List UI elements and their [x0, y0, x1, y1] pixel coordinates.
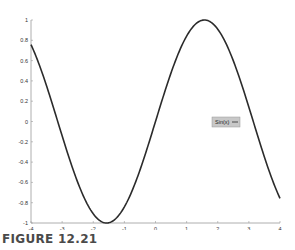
- y-tick-label: 0.6: [20, 58, 28, 64]
- y-tick-label: -1: [23, 220, 28, 226]
- y-tick-label: 0.8: [20, 37, 28, 43]
- x-tick-label: -1: [122, 226, 127, 230]
- legend-label: Sin(x): [215, 119, 230, 125]
- y-tick-label: -0.8: [19, 200, 28, 206]
- x-tick-label: -4: [29, 226, 34, 230]
- figure-caption: FIGURE 12.21: [2, 232, 97, 246]
- y-tick-label: 1: [25, 17, 28, 23]
- x-tick-label: -3: [60, 226, 65, 230]
- y-tick-label: -0.4: [19, 159, 28, 165]
- legend: Sin(x): [212, 117, 240, 127]
- y-tick-label: -0.6: [19, 179, 28, 185]
- sine-chart: -1-0.8-0.6-0.4-0.200.20.40.60.81 -4-3-2-…: [0, 0, 295, 230]
- y-tick-label: -0.2: [19, 139, 28, 145]
- x-tick-label: 0: [154, 226, 157, 230]
- x-tick-label: 3: [247, 226, 250, 230]
- sin-curve: [31, 20, 280, 223]
- y-tick-label: 0.4: [20, 78, 28, 84]
- x-axis: -4-3-2-101234: [29, 221, 282, 230]
- x-tick-label: -2: [91, 226, 96, 230]
- y-tick-label: 0: [25, 119, 28, 125]
- x-tick-label: 4: [278, 226, 281, 230]
- x-tick-label: 2: [216, 226, 219, 230]
- y-axis: -1-0.8-0.6-0.4-0.200.20.40.60.81: [19, 17, 33, 226]
- x-tick-label: 1: [185, 226, 188, 230]
- y-tick-label: 0.2: [20, 98, 28, 104]
